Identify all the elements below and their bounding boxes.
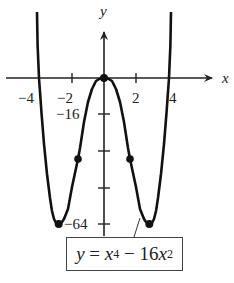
eq-equals: = bbox=[85, 243, 105, 265]
eq-x1: x bbox=[105, 243, 113, 265]
y-tick-label-neg64: −64 bbox=[64, 216, 88, 232]
point-inflection-left bbox=[74, 155, 82, 163]
point-inflection-right bbox=[126, 155, 134, 163]
x-axis-label: x bbox=[221, 70, 229, 86]
eq-x2: x bbox=[158, 243, 166, 265]
y-tick-label-neg16: −16 bbox=[56, 106, 80, 122]
x-tick-label-neg2: −2 bbox=[57, 90, 73, 106]
x-tick-label-neg4: −4 bbox=[18, 90, 34, 106]
x-tick-label-4: 4 bbox=[169, 90, 177, 106]
y-axis-label: y bbox=[98, 3, 107, 19]
point-local-max bbox=[100, 74, 108, 82]
eq-y: y bbox=[76, 243, 84, 265]
point-min-right bbox=[145, 220, 153, 228]
equation-box: y = x4 − 16x2 bbox=[66, 237, 183, 271]
eq-minus-16: − 16 bbox=[119, 243, 158, 265]
point-min-left bbox=[55, 220, 63, 228]
equation-leader-line bbox=[134, 218, 140, 237]
x-tick-label-2: 2 bbox=[132, 90, 140, 106]
